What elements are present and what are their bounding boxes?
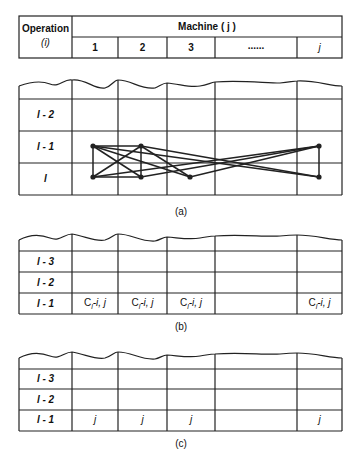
panel-c-row-label: l - 1: [19, 415, 72, 425]
panel-b-cell: Cl-i, j: [297, 298, 342, 310]
panel-c-caption: (c): [166, 438, 196, 449]
panel-a-row-label: l - 1: [19, 142, 72, 152]
panel-b-cell: Cl-i, j: [167, 298, 215, 310]
panel-a-row-label: l - 2: [19, 110, 72, 120]
panel-a-caption: (a): [166, 206, 196, 217]
panel-c-cell: j: [167, 415, 215, 425]
machine-col-1: 1: [72, 43, 118, 53]
panel-b-row-label: l - 3: [19, 257, 72, 267]
machine-col-2: 2: [118, 43, 167, 53]
panel-c-wavy-top: [19, 352, 342, 359]
panel-b-cell: Cl-i, j: [72, 298, 118, 310]
machine-label: Machine ( j ): [72, 22, 342, 32]
panel-c-cell: j: [72, 415, 118, 425]
diagram-graphics: [0, 0, 361, 461]
precedence-network: [93, 146, 319, 177]
machine-col-j: j: [297, 43, 342, 53]
panel-c-row-label: l - 2: [19, 395, 72, 405]
panel-b-row-label: l - 1: [19, 299, 72, 309]
machine-col-ellipsis: ......: [215, 41, 297, 51]
operation-variable: (i): [19, 38, 72, 48]
panel-b-caption: (b): [166, 321, 196, 332]
machine-col-3: 3: [167, 43, 215, 53]
panel-b-wavy-top: [19, 234, 342, 241]
panel-c-cell: j: [297, 415, 342, 425]
panel-b-cell: Cl-i, j: [118, 298, 167, 310]
panel-a-wavy-top: [19, 80, 342, 89]
panel-b-row-label: l - 2: [19, 278, 72, 288]
operation-label: Operation: [19, 24, 72, 34]
panel-c-cell: j: [118, 415, 167, 425]
panel-c-row-label: l - 3: [19, 374, 72, 384]
panel-a-row-label: l: [19, 174, 72, 184]
